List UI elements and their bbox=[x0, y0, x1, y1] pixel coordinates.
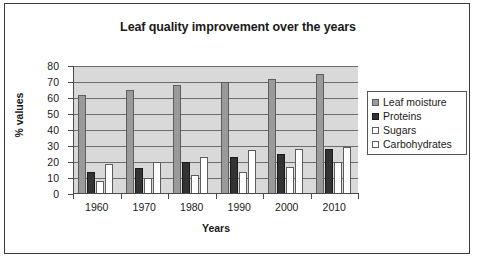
bar bbox=[126, 90, 134, 194]
legend-item[interactable]: Leaf moisture bbox=[372, 95, 462, 109]
legend-label: Leaf moisture bbox=[383, 97, 447, 108]
bar bbox=[334, 162, 342, 194]
bar bbox=[295, 149, 303, 194]
bar bbox=[268, 79, 276, 194]
bar bbox=[105, 164, 113, 194]
legend-label: Carbohydrates bbox=[383, 139, 452, 150]
x-axis-tick-label: 1980 bbox=[180, 201, 203, 213]
chart-legend: Leaf moistureProteinsSugarsCarbohydrates bbox=[367, 91, 467, 155]
y-axis-tick-label: 50 bbox=[47, 109, 59, 120]
y-axis-tick-label: 40 bbox=[47, 125, 59, 136]
chart-frame: Leaf quality improvement over the years … bbox=[4, 3, 470, 254]
legend-item[interactable]: Carbohydrates bbox=[372, 137, 462, 151]
bar bbox=[316, 74, 324, 194]
x-axis-tick-label: 2000 bbox=[275, 201, 298, 213]
bar bbox=[191, 175, 199, 194]
bar bbox=[78, 95, 86, 194]
gridline bbox=[74, 66, 358, 67]
y-axis-tick-label: 0 bbox=[53, 189, 59, 200]
x-axis-tick-label: 1960 bbox=[85, 201, 108, 213]
bar bbox=[153, 162, 161, 194]
x-axis-title: Years bbox=[73, 222, 359, 234]
x-axis-tick-label: 2010 bbox=[323, 201, 346, 213]
y-axis-tick-label: 30 bbox=[47, 141, 59, 152]
legend-label: Proteins bbox=[383, 111, 422, 122]
y-axis-tick-labels: 01020304050607080 bbox=[5, 66, 67, 194]
x-axis-tick bbox=[168, 194, 169, 199]
legend-item[interactable]: Proteins bbox=[372, 109, 462, 123]
x-axis-tick bbox=[311, 194, 312, 199]
legend-swatch-icon bbox=[372, 141, 379, 148]
x-axis-tick-label: 1990 bbox=[228, 201, 251, 213]
legend-label: Sugars bbox=[383, 125, 416, 136]
bar bbox=[173, 85, 181, 194]
bar bbox=[144, 178, 152, 194]
x-axis-tick-label: 1970 bbox=[133, 201, 156, 213]
legend-swatch-icon bbox=[372, 113, 379, 120]
bar bbox=[325, 149, 333, 194]
bar bbox=[248, 150, 256, 194]
y-axis-tick-label: 70 bbox=[47, 77, 59, 88]
bar bbox=[87, 172, 95, 194]
bar bbox=[135, 168, 143, 194]
x-axis-tick bbox=[263, 194, 264, 199]
legend-item[interactable]: Sugars bbox=[372, 123, 462, 137]
bar bbox=[239, 172, 247, 194]
x-axis-tick bbox=[121, 194, 122, 199]
legend-swatch-icon bbox=[372, 127, 379, 134]
y-axis-tick-label: 10 bbox=[47, 173, 59, 184]
x-axis-tick bbox=[216, 194, 217, 199]
plot-area bbox=[73, 66, 358, 194]
bar bbox=[230, 157, 238, 194]
x-axis-tick bbox=[358, 194, 359, 199]
bar bbox=[182, 162, 190, 194]
bar bbox=[343, 147, 351, 194]
legend-swatch-icon bbox=[372, 99, 379, 106]
x-axis-tick-labels: 196019701980199020002010 bbox=[73, 201, 359, 215]
bar bbox=[200, 157, 208, 194]
bar bbox=[277, 154, 285, 194]
bar bbox=[221, 82, 229, 194]
bar bbox=[286, 167, 294, 194]
y-axis-tick-label: 80 bbox=[47, 61, 59, 72]
y-axis-tick-label: 20 bbox=[47, 157, 59, 168]
x-axis-ticks bbox=[73, 194, 359, 199]
chart-title: Leaf quality improvement over the years bbox=[5, 20, 471, 34]
x-axis-tick bbox=[73, 194, 74, 199]
y-axis-tick-label: 60 bbox=[47, 93, 59, 104]
